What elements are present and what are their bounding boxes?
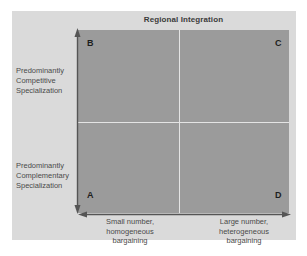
y-axis-bottom-label: Predominantly Complementary Specializati…: [16, 161, 69, 191]
y-axis-arrow-up-icon: [75, 28, 81, 37]
x-axis-left-label: Small number, homogeneous bargaining: [90, 217, 170, 246]
y-axis-arrow-down-icon: [75, 205, 81, 214]
x-axis-right-label: Large number, heterogeneous bargaining: [204, 217, 284, 246]
y-axis-top-label: Predominantly Competitive Specialization: [16, 66, 64, 96]
x-axis-arrow-left-icon: [78, 212, 87, 218]
